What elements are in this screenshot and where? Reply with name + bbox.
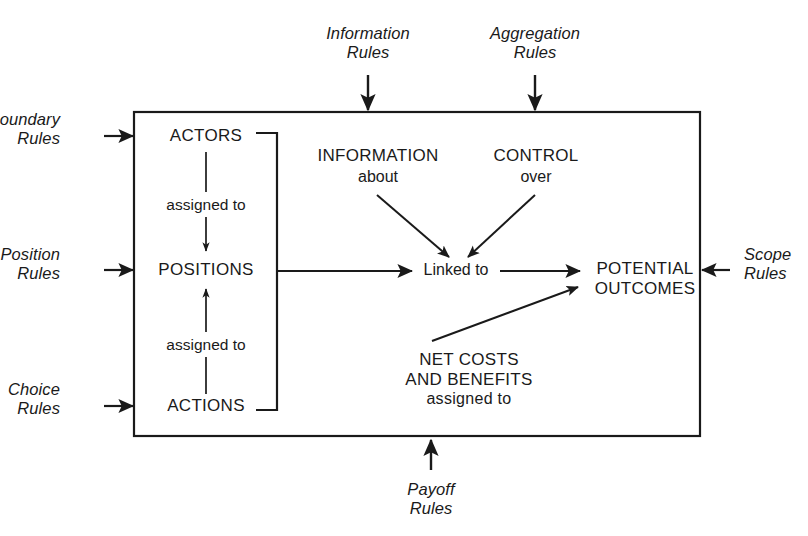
rule-label-position-line2: Rules: [0, 264, 60, 283]
rule-label-aggregation-line1: Aggregation: [490, 24, 580, 43]
node-positions: POSITIONS: [158, 260, 253, 280]
node-control: CONTROL: [493, 146, 578, 166]
rule-label-payoff-line1: Payoff: [407, 480, 454, 499]
rule-label-position: Position Rules: [0, 245, 60, 284]
rule-label-aggregation-line2: Rules: [490, 43, 580, 62]
rule-label-scope-line1: Scope: [744, 245, 791, 264]
node-potential-outcomes: POTENTIAL OUTCOMES: [595, 259, 696, 299]
node-linked-to: Linked to: [424, 261, 489, 280]
node-actors: ACTORS: [170, 126, 242, 146]
node-information-sub: about: [358, 168, 398, 187]
rule-label-information: Information Rules: [326, 24, 410, 63]
rule-label-boundary-line2: Rules: [0, 129, 60, 148]
rule-label-position-line1: Position: [0, 245, 60, 264]
rule-label-choice-line1: Choice: [8, 380, 60, 399]
rule-label-scope: Scope Rules: [744, 245, 791, 284]
node-actions: ACTIONS: [167, 396, 245, 416]
rule-label-choice-line2: Rules: [8, 399, 60, 418]
rule-label-boundary-line1: Boundary: [0, 110, 60, 129]
rule-label-information-line1: Information: [326, 24, 410, 43]
rule-label-scope-line2: Rules: [744, 264, 791, 283]
rule-label-aggregation: Aggregation Rules: [490, 24, 580, 63]
arrow-control-to-linked-to: [468, 195, 535, 257]
node-control-sub: over: [520, 168, 551, 187]
edge-label-actions-to-positions: assigned to: [166, 336, 245, 354]
rule-label-payoff: Payoff Rules: [407, 480, 454, 519]
node-potential-outcomes-line2: OUTCOMES: [595, 279, 696, 299]
rule-label-boundary: Boundary Rules: [0, 110, 60, 149]
rule-label-payoff-line2: Rules: [407, 499, 454, 518]
rule-label-information-line2: Rules: [326, 43, 410, 62]
rule-label-choice: Choice Rules: [8, 380, 60, 419]
node-net-costs-line1: NET COSTS: [405, 350, 532, 370]
diagram-canvas: Boundary Rules Position Rules Choice Rul…: [0, 0, 808, 536]
arrow-net-costs-to-potential-outcomes: [432, 287, 578, 341]
actors-positions-actions-bracket: [256, 133, 277, 410]
node-net-costs-sub: assigned to: [405, 390, 532, 409]
node-net-costs-line2: AND BENEFITS: [405, 370, 532, 390]
node-net-costs-and-benefits: NET COSTS AND BENEFITS assigned to: [405, 350, 532, 409]
edge-label-actors-to-positions: assigned to: [166, 196, 245, 214]
node-potential-outcomes-line1: POTENTIAL: [595, 259, 696, 279]
node-information: INFORMATION: [317, 146, 438, 166]
arrow-information-to-linked-to: [377, 195, 449, 257]
